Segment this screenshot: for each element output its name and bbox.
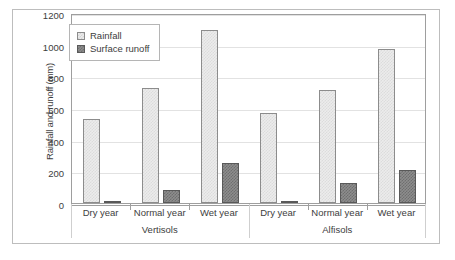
y-tick-label-800: 800 [48,73,64,84]
axis-tick-1 [130,204,131,210]
legend-swatch-runoff-icon [77,45,85,53]
axis-tick-5 [367,204,368,210]
bar-rainfall-2[interactable] [201,30,218,203]
category-label-5: Wet year [367,207,426,218]
bar-surface-runoff-2[interactable] [222,163,239,203]
y-tick-label-600: 600 [48,105,64,116]
category-label-0: Dry year [71,207,130,218]
bar-rainfall-5[interactable] [378,49,395,203]
category-label-3: Dry year [249,207,308,218]
chart-frame: Rainfall and runoff (mm) 120010008006004… [12,9,440,244]
bar-surface-runoff-1[interactable] [163,190,180,203]
legend-item-runoff[interactable]: Surface runoff [77,42,150,55]
y-tick-label-1200: 1200 [43,10,64,21]
category-label-4: Normal year [308,207,367,218]
bar-surface-runoff-4[interactable] [340,183,357,203]
category-label-2: Wet year [189,207,248,218]
y-tick-label-1000: 1000 [43,41,64,52]
group-separator-end [425,204,426,238]
group-axis: VertisolsAlfisols [71,222,426,239]
bar-rainfall-1[interactable] [142,88,159,203]
y-tick-label-400: 400 [48,136,64,147]
legend-label: Rainfall [90,30,122,41]
bar-surface-runoff-5[interactable] [399,170,416,203]
legend-swatch-rainfall-icon [77,32,85,40]
chart-legend: RainfallSurface runoff [69,24,160,61]
y-tick-label-0: 0 [59,200,64,211]
y-tick-label-200: 200 [48,168,64,179]
legend-item-rainfall[interactable]: Rainfall [77,29,150,42]
axis-tick-2 [189,204,190,210]
y-axis-tick-labels: 120010008006004002000 [13,14,67,204]
legend-label: Surface runoff [90,43,150,54]
group-separator-0 [71,204,72,238]
group-label-alfisols: Alfisols [249,224,427,235]
bar-rainfall-4[interactable] [319,90,336,203]
axis-tick-4 [308,204,309,210]
group-label-vertisols: Vertisols [71,224,249,235]
bar-surface-runoff-0[interactable] [104,201,121,203]
bar-surface-runoff-3[interactable] [281,201,298,203]
bar-rainfall-3[interactable] [260,113,277,203]
chart-figure: Rainfall and runoff (mm) 120010008006004… [0,0,455,260]
category-label-1: Normal year [130,207,189,218]
bar-rainfall-0[interactable] [83,119,100,203]
group-separator-1 [249,204,250,238]
